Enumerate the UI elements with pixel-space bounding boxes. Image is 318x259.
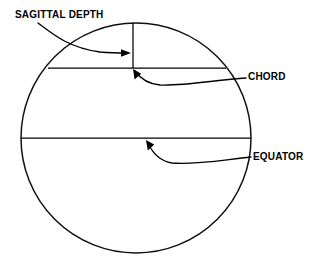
sagittal-depth-leader bbox=[38, 23, 128, 53]
equator-label: EQUATOR bbox=[253, 151, 304, 162]
sagittal-depth-label: SAGITTAL DEPTH bbox=[15, 9, 104, 20]
chord-label: CHORD bbox=[248, 71, 286, 82]
chord-arrowhead bbox=[133, 69, 141, 79]
equator-leader bbox=[148, 143, 251, 163]
equator-arrowhead bbox=[146, 140, 154, 150]
sagittal-depth-arrowhead bbox=[121, 49, 131, 57]
chord-leader bbox=[135, 71, 246, 85]
diagram-root: SAGITTAL DEPTH CHORD EQUATOR bbox=[0, 0, 318, 259]
sagittal-depth-diagram: SAGITTAL DEPTH CHORD EQUATOR bbox=[0, 0, 318, 259]
